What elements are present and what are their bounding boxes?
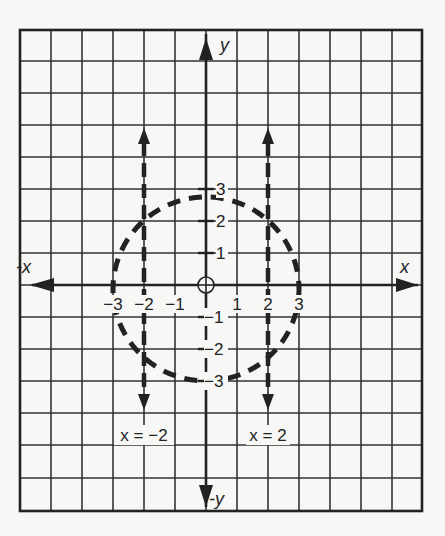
arrow-right-icon <box>396 278 418 292</box>
neg-y-axis-label: -y <box>209 489 225 509</box>
labels: y-yx-x−3−2−1123321−1−2−3x = −2x = 2 <box>16 35 410 509</box>
y-tick-label: 1 <box>216 244 225 263</box>
y-tick-label: 2 <box>216 212 225 231</box>
y-tick-label: −2 <box>204 340 223 359</box>
x-tick-label: 1 <box>232 295 241 314</box>
x-tick-label: 2 <box>263 295 272 314</box>
x-tick-label: 3 <box>294 295 303 314</box>
y-tick-label: −1 <box>204 308 223 327</box>
coordinate-plane: y-yx-x−3−2−1123321−1−2−3x = −2x = 2 <box>0 0 445 536</box>
x-tick-label: −2 <box>134 295 153 314</box>
arrow-up-icon <box>199 38 213 60</box>
x-tick-label: −3 <box>103 295 122 314</box>
line-equation-label: x = 2 <box>249 426 286 445</box>
arrow-up-icon <box>138 128 150 144</box>
arrow-left-icon <box>30 278 54 292</box>
grid <box>20 30 422 511</box>
y-tick-label: 3 <box>216 180 225 199</box>
arrow-up-icon <box>262 128 274 144</box>
x-tick-label: −1 <box>165 295 184 314</box>
axes <box>30 34 418 507</box>
arrow-down-icon <box>138 394 150 410</box>
arrow-down-icon <box>262 394 274 410</box>
y-axis-label: y <box>218 35 230 55</box>
y-tick-label: −3 <box>204 372 223 391</box>
line-equation-label: x = −2 <box>120 426 167 445</box>
x-axis-label: x <box>399 257 410 277</box>
neg-x-axis-label: -x <box>16 257 32 277</box>
